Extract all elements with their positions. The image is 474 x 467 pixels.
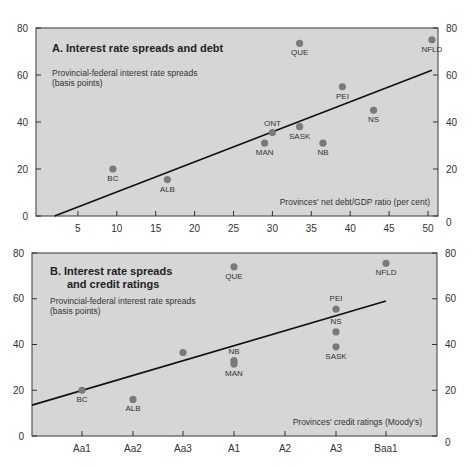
y-axis-label: Provincial-federal interest rate spreads <box>50 296 196 306</box>
point-label: NS <box>368 115 379 124</box>
data-point <box>109 165 116 172</box>
x-tick-label: 25 <box>228 223 240 234</box>
y-tick-label-right: 80 <box>446 23 458 34</box>
data-point <box>179 349 186 356</box>
y-tick-label-right: 20 <box>445 385 457 396</box>
data-point <box>332 328 339 335</box>
data-point <box>428 36 435 43</box>
panel-title-line2: and credit ratings <box>67 278 159 290</box>
y-axis-label: (basis points) <box>52 78 103 88</box>
point-label: MAN <box>225 369 243 378</box>
point-label: BC <box>107 174 118 183</box>
data-point <box>370 107 377 114</box>
panel-b: 002020404060608080Aa1Aa2Aa3A1A2A3Baa1B. … <box>13 248 457 455</box>
data-point <box>319 140 326 147</box>
y-axis-label: (basis points) <box>50 306 101 316</box>
x-tick-label: A3 <box>330 443 343 454</box>
point-label: NS <box>330 317 341 326</box>
data-point <box>164 176 171 183</box>
y-tick-label-right: 80 <box>445 248 457 259</box>
chart-figure: 0020204040606080805101520253035404550A. … <box>0 0 474 467</box>
y-tick-label-right: 60 <box>446 70 458 81</box>
data-point <box>339 83 346 90</box>
y-tick-label-left: 0 <box>18 431 24 442</box>
point-label: NB <box>228 347 239 356</box>
y-tick-label-left: 20 <box>13 385 25 396</box>
point-label: SASK <box>325 352 347 361</box>
point-label: SASK <box>289 132 311 141</box>
x-tick-label: 20 <box>189 223 201 234</box>
panel-a: 0020204040606080805101520253035404550A. … <box>17 23 458 235</box>
point-label: QUE <box>225 272 242 281</box>
point-label: BC <box>76 395 87 404</box>
y-tick-label-left: 60 <box>17 70 29 81</box>
y-axis-label: Provincial-federal interest rate spreads <box>52 68 198 78</box>
y-tick-label-left: 0 <box>22 211 28 222</box>
data-point <box>230 360 237 367</box>
x-tick-label: A2 <box>279 443 292 454</box>
x-tick-label: Aa3 <box>174 443 192 454</box>
data-point <box>261 140 268 147</box>
data-point <box>296 123 303 130</box>
data-point <box>296 40 303 47</box>
point-label: PEI <box>330 294 343 303</box>
y-tick-label-right: 60 <box>445 293 457 304</box>
data-point <box>269 129 276 136</box>
x-tick-label: Aa1 <box>73 443 91 454</box>
panel-title: B. Interest rate spreads <box>50 265 172 277</box>
data-point <box>382 260 389 267</box>
point-label: NB <box>317 148 328 157</box>
y-tick-label-left: 40 <box>13 339 25 350</box>
y-tick-label-left: 60 <box>13 293 25 304</box>
point-label: PEI <box>336 92 349 101</box>
point-label: NFLD <box>376 268 397 277</box>
data-point <box>78 387 85 394</box>
x-tick-label: 35 <box>306 223 318 234</box>
y-tick-label-left: 80 <box>13 248 25 259</box>
y-tick-label-left: 20 <box>17 164 29 175</box>
x-tick-label: 15 <box>150 223 162 234</box>
x-tick-label: Aa2 <box>124 443 142 454</box>
data-point <box>332 305 339 312</box>
panel-title: A. Interest rate spreads and debt <box>52 42 223 54</box>
point-label: ALB <box>125 404 140 413</box>
x-axis-label: Provinces' credit ratings (Moody's) <box>293 417 423 427</box>
y-tick-label-right: 20 <box>446 164 458 175</box>
y-tick-label-right: 0 <box>445 437 451 448</box>
x-tick-label: 40 <box>345 223 357 234</box>
y-tick-label-right: 40 <box>445 339 457 350</box>
y-tick-label-left: 40 <box>17 117 29 128</box>
y-tick-label-right: 40 <box>446 117 458 128</box>
y-tick-label-left: 80 <box>17 23 29 34</box>
x-tick-label: A1 <box>228 443 241 454</box>
x-tick-label: 45 <box>384 223 396 234</box>
x-tick-label: 10 <box>111 223 123 234</box>
x-tick-label: 5 <box>75 223 81 234</box>
y-tick-label-right: 0 <box>446 217 452 228</box>
point-label: NFLD <box>421 45 442 54</box>
data-point <box>230 263 237 270</box>
x-axis-label: Provinces' net debt/GDP ratio (per cent) <box>280 197 430 207</box>
x-tick-label: 30 <box>267 223 279 234</box>
x-tick-label: 50 <box>422 223 434 234</box>
point-label: ALB <box>160 185 175 194</box>
point-label: QUE <box>291 48 308 57</box>
data-point <box>129 396 136 403</box>
x-tick-label: Baa1 <box>374 443 398 454</box>
point-label: ONT <box>264 119 281 128</box>
point-label: MAN <box>256 148 274 157</box>
data-point <box>332 343 339 350</box>
